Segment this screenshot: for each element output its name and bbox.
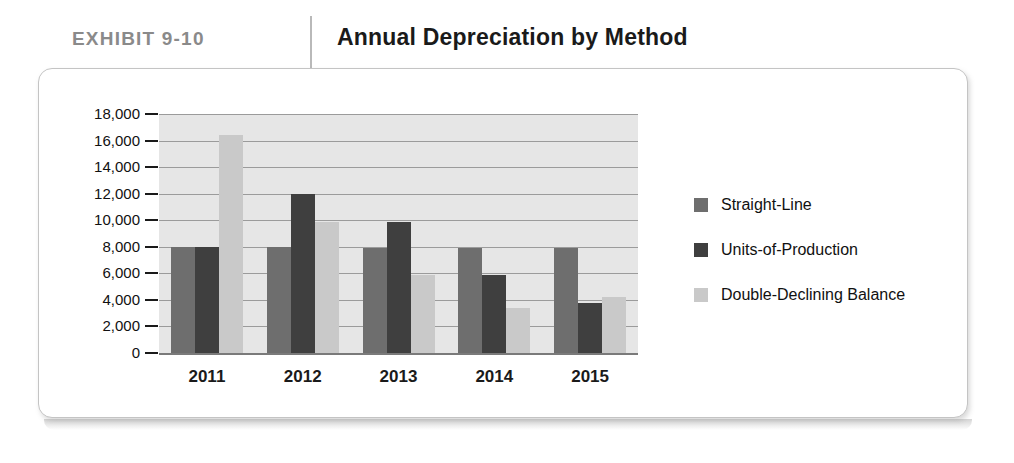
y-axis-tick xyxy=(145,140,158,142)
legend-label: Double-Declining Balance xyxy=(721,286,905,304)
legend-item-units-of-production[interactable]: Units-of-Production xyxy=(694,239,964,261)
y-axis-tick-label: 6,000 xyxy=(60,264,140,281)
y-axis-tick-label: 14,000 xyxy=(60,158,140,175)
bar-2012-units-of-production xyxy=(291,194,315,353)
legend-item-double-declining-balance[interactable]: Double-Declining Balance xyxy=(694,284,964,306)
exhibit-header: EXHIBIT 9-10 Annual Depreciation by Meth… xyxy=(0,0,1014,68)
bar-2013-double-declining-balance xyxy=(411,275,435,353)
bar-2012-double-declining-balance xyxy=(315,222,339,353)
legend-swatch-icon xyxy=(694,288,708,302)
legend-item-straight-line[interactable]: Straight-Line xyxy=(694,194,964,216)
bar-2013-straight-line xyxy=(363,248,387,353)
gridline xyxy=(159,114,638,115)
x-axis-label-2015: 2015 xyxy=(542,367,638,387)
y-axis-tick xyxy=(145,113,158,115)
y-axis-tick-label: 18,000 xyxy=(60,105,140,122)
chart-legend: Straight-LineUnits-of-ProductionDouble-D… xyxy=(694,194,964,329)
bar-2015-units-of-production xyxy=(578,303,602,353)
y-axis-tick-label: 4,000 xyxy=(60,291,140,308)
page-title: Annual Depreciation by Method xyxy=(337,24,688,51)
y-axis-tick-label: 12,000 xyxy=(60,185,140,202)
bar-2015-double-declining-balance xyxy=(602,297,626,353)
y-axis-tick xyxy=(145,166,158,168)
bar-2011-units-of-production xyxy=(195,247,219,353)
chart-card: 18,00016,00014,00012,00010,0008,0006,000… xyxy=(38,68,968,418)
legend-swatch-icon xyxy=(694,243,708,257)
bar-2011-double-declining-balance xyxy=(219,135,243,353)
x-axis-line xyxy=(159,353,638,355)
y-axis-tick xyxy=(145,219,158,221)
plot-area: 18,00016,00014,00012,00010,0008,0006,000… xyxy=(159,114,638,353)
card-shadow xyxy=(44,419,972,430)
y-axis-tick-label: 8,000 xyxy=(60,238,140,255)
y-axis-tick-label: 0 xyxy=(60,344,140,361)
bar-2012-straight-line xyxy=(267,247,291,353)
bar-2015-straight-line xyxy=(554,248,578,353)
bar-2014-straight-line xyxy=(458,248,482,353)
y-axis-tick xyxy=(145,193,158,195)
bar-2014-units-of-production xyxy=(482,275,506,353)
y-axis-tick xyxy=(145,325,158,327)
legend-label: Straight-Line xyxy=(721,196,812,214)
bar-2011-straight-line xyxy=(171,247,195,353)
bar-2014-double-declining-balance xyxy=(506,308,530,353)
y-axis-tick xyxy=(145,299,158,301)
chart-area: 18,00016,00014,00012,00010,0008,0006,000… xyxy=(39,69,969,419)
x-axis-label-2013: 2013 xyxy=(351,367,447,387)
y-axis-tick xyxy=(145,272,158,274)
y-axis-tick-label: 16,000 xyxy=(60,132,140,149)
legend-label: Units-of-Production xyxy=(721,241,858,259)
legend-swatch-icon xyxy=(694,198,708,212)
y-axis-tick-label: 2,000 xyxy=(60,317,140,334)
x-axis-label-2014: 2014 xyxy=(446,367,542,387)
x-axis-label-2012: 2012 xyxy=(255,367,351,387)
y-axis-tick-label: 10,000 xyxy=(60,211,140,228)
y-axis-tick xyxy=(145,246,158,248)
exhibit-number-label: EXHIBIT 9-10 xyxy=(72,28,205,50)
header-divider xyxy=(310,16,312,70)
x-axis-label-2011: 2011 xyxy=(159,367,255,387)
y-axis-tick xyxy=(145,352,158,354)
bar-2013-units-of-production xyxy=(387,222,411,353)
